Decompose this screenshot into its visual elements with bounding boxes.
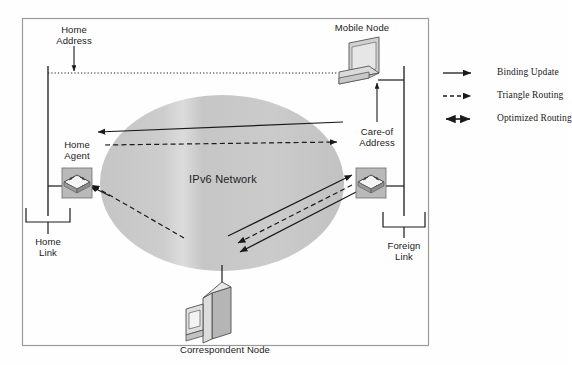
legend-swatches [443, 73, 471, 119]
legend-label-binding-update: Binding Update [497, 67, 559, 77]
legend-label-optimized-routing: Optimized Routing [497, 113, 572, 123]
legend-label-triangle-routing: Triangle Routing [497, 90, 563, 100]
mobile-node-icon [339, 37, 379, 84]
correspondent-node-icon [186, 282, 231, 343]
label-foreign-link: Foreign Link [378, 240, 430, 262]
label-home-link: Home Link [22, 236, 74, 258]
label-ipv6-network: IPv6 Network [170, 174, 276, 185]
foreign-router-icon [356, 168, 386, 198]
label-care-of-address: Care-of Address [351, 126, 403, 148]
label-mobile-node: Mobile Node [312, 22, 412, 33]
label-home-address: Home Address [48, 24, 100, 46]
label-correspondent-node: Correspondent Node [150, 344, 300, 355]
label-home-agent: Home Agent [50, 139, 104, 161]
home-agent-router-icon [62, 168, 92, 198]
